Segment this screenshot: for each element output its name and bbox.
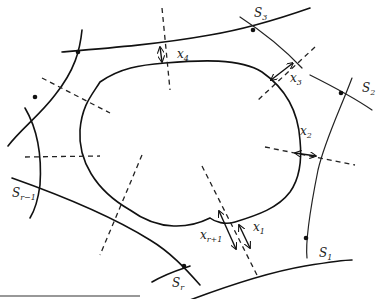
- label-s3: S3: [254, 6, 267, 22]
- dashed-normal-x2: [265, 147, 355, 165]
- label-s2: S2: [362, 81, 375, 97]
- arrow-x1: [239, 225, 250, 248]
- dashed-normal-left-lower: [25, 156, 100, 157]
- arrow-x4: [160, 47, 162, 62]
- dashed-normal-bottom-left: [100, 155, 142, 255]
- arrow-x2: [295, 153, 316, 156]
- diagram-canvas: S3 S2 S1 Sr Sr−1 x4 x3 x2 x1 xr+1: [0, 0, 385, 299]
- point-s2: [339, 91, 344, 96]
- dashed-normal-x4: [162, 8, 170, 90]
- point-s1: [304, 236, 309, 241]
- curve-sr: [12, 178, 200, 285]
- curve-s3-s2: [240, 17, 302, 68]
- point-sr: [182, 264, 187, 269]
- label-x1: x1: [253, 220, 265, 236]
- label-sr-minus-1: Sr−1: [12, 186, 36, 202]
- curve-sr-short: [152, 266, 190, 282]
- point-sr-minus-1: [33, 95, 38, 100]
- label-s1: S1: [319, 246, 332, 262]
- label-x4: x4: [177, 47, 189, 63]
- curve-s2-s1: [307, 78, 352, 258]
- label-x2: x2: [300, 124, 312, 140]
- diagram-svg: S3 S2 S1 Sr Sr−1 x4 x3 x2 x1 xr+1: [0, 0, 385, 299]
- label-x3: x3: [290, 71, 302, 87]
- label-xr1: xr+1: [200, 228, 222, 244]
- point-s3: [251, 28, 256, 33]
- curve-left-upper: [8, 30, 82, 146]
- curve-s3: [62, 8, 310, 52]
- dashed-normal-bottom: [202, 166, 258, 277]
- curve-s1: [190, 260, 352, 299]
- label-sr: Sr: [172, 276, 185, 292]
- central-loop: [80, 61, 301, 226]
- dashed-normal-x3: [258, 47, 315, 100]
- point-left-upper: [76, 50, 81, 55]
